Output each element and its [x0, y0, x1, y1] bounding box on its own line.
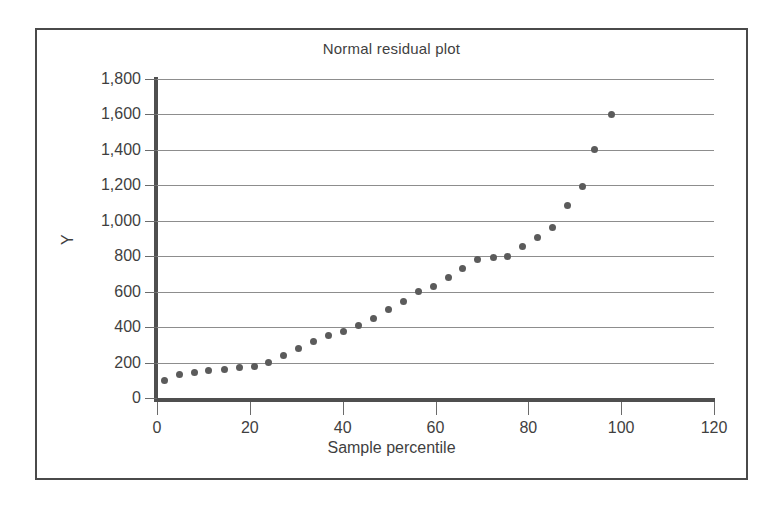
y-tick-label: 600 — [114, 283, 141, 301]
y-axis-line — [154, 77, 158, 400]
gridline — [157, 256, 714, 257]
data-point — [221, 366, 228, 373]
y-tick-label: 400 — [114, 318, 141, 336]
x-tick — [528, 402, 529, 415]
gridline — [157, 327, 714, 328]
x-tick-label: 80 — [519, 419, 537, 437]
x-tick-label: 20 — [241, 419, 259, 437]
data-point — [591, 146, 598, 153]
data-point — [579, 183, 586, 190]
gridline — [157, 185, 714, 186]
data-point — [474, 256, 481, 263]
data-point — [534, 234, 541, 241]
y-tick — [145, 114, 157, 115]
y-tick — [145, 256, 157, 257]
x-axis-line — [154, 398, 715, 402]
plot-area: 02004006008001,0001,2001,4001,6001,800 0… — [157, 79, 714, 398]
data-point — [519, 243, 526, 250]
y-tick — [145, 79, 157, 80]
data-point — [370, 315, 377, 322]
data-point — [251, 363, 258, 370]
data-point — [265, 359, 272, 366]
y-axis-title: Y — [59, 234, 77, 245]
x-tick — [250, 402, 251, 415]
data-point — [325, 332, 332, 339]
x-tick — [714, 402, 715, 415]
gridline — [157, 79, 714, 80]
data-point — [310, 338, 317, 345]
y-tick-label: 0 — [132, 389, 141, 407]
y-tick — [145, 327, 157, 328]
x-tick-label: 120 — [701, 419, 728, 437]
data-point — [400, 298, 407, 305]
x-tick-label: 60 — [427, 419, 445, 437]
y-tick-label: 1,200 — [101, 176, 141, 194]
y-tick-label: 1,600 — [101, 105, 141, 123]
y-tick — [145, 292, 157, 293]
gridline — [157, 150, 714, 151]
x-tick-label: 100 — [608, 419, 635, 437]
x-axis-title: Sample percentile — [37, 439, 746, 457]
chart-title: Normal residual plot — [37, 40, 746, 57]
x-tick — [343, 402, 344, 415]
y-tick — [145, 398, 157, 399]
x-tick — [157, 402, 158, 415]
data-point — [205, 367, 212, 374]
data-point — [295, 345, 302, 352]
data-point — [608, 111, 615, 118]
gridline — [157, 114, 714, 115]
y-tick-label: 1,400 — [101, 141, 141, 159]
y-tick — [145, 363, 157, 364]
x-tick — [621, 402, 622, 415]
y-tick-label: 1,800 — [101, 70, 141, 88]
data-point — [355, 322, 362, 329]
gridline — [157, 292, 714, 293]
y-tick — [145, 185, 157, 186]
y-tick-label: 200 — [114, 354, 141, 372]
data-point — [191, 369, 198, 376]
data-point — [445, 274, 452, 281]
y-tick — [145, 150, 157, 151]
x-tick-label: 0 — [153, 419, 162, 437]
data-point — [161, 377, 168, 384]
x-tick-label: 40 — [334, 419, 352, 437]
data-point — [490, 254, 497, 261]
data-point — [236, 364, 243, 371]
data-point — [564, 202, 571, 209]
data-point — [385, 306, 392, 313]
y-tick-label: 1,000 — [101, 212, 141, 230]
data-point — [415, 288, 422, 295]
chart-figure: Normal residual plot Y 02004006008001,00… — [35, 28, 748, 480]
data-point — [340, 328, 347, 335]
data-point — [176, 371, 183, 378]
y-tick-label: 800 — [114, 247, 141, 265]
data-point — [549, 224, 556, 231]
data-point — [459, 265, 466, 272]
data-point — [430, 283, 437, 290]
gridline — [157, 221, 714, 222]
data-point — [280, 352, 287, 359]
x-tick — [436, 402, 437, 415]
y-tick — [145, 221, 157, 222]
data-point — [504, 253, 511, 260]
